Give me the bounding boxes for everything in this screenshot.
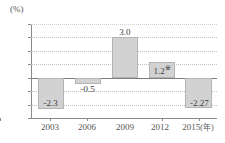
- y-axis-unit-label: (%): [10, 4, 24, 14]
- y-tickmark-minus-2: [28, 105, 31, 106]
- y-tickmark-minus-1: [28, 91, 31, 92]
- x-tick-label-2015-year: 2015: [182, 122, 200, 132]
- y-tickmark-3: [28, 37, 31, 38]
- plot-area: 4 3 2 1 0 -1 -2 -3 -2.3 -0.5 3.0 1.2※ -2…: [31, 24, 217, 118]
- x-tick-label-2012: 2012: [151, 123, 169, 132]
- x-tickmark-2012: [162, 118, 163, 121]
- x-axis-unit-label: (年): [200, 123, 213, 132]
- x-tick-label-2009: 2009: [116, 123, 134, 132]
- x-tick-label-2015: 2015(年): [182, 123, 213, 132]
- bar-label-2015: -2.27: [182, 99, 217, 108]
- bar-label-2012-value: 1.2: [153, 66, 164, 76]
- x-tick-label-2003: 2003: [41, 123, 59, 132]
- bar-label-2009: 3.0: [107, 28, 142, 37]
- bar-label-2012: 1.2※: [144, 65, 179, 76]
- bar-label-2003: -2.3: [38, 99, 64, 108]
- y-tickmark-4: [28, 24, 31, 25]
- x-tickmark-2006: [87, 118, 88, 121]
- x-tick-label-2006: 2006: [78, 123, 96, 132]
- bar-label-2006: -0.5: [70, 85, 105, 94]
- x-tickmark-2003: [50, 118, 51, 121]
- x-axis-line: [31, 118, 217, 119]
- y-tickmark-1: [28, 64, 31, 65]
- x-tickmark-2009: [0, 118, 1, 121]
- gridline-4: [31, 24, 217, 25]
- y-tickmark-zero: [28, 78, 31, 79]
- bar-2009: [112, 37, 138, 77]
- asterisk-icon: ※: [165, 64, 171, 72]
- x-tickmark-2015: [199, 118, 200, 121]
- bar-chart: (%) 4 3 2 1 0 -1 -2 -3 -2.3: [0, 0, 225, 143]
- y-tickmark-2: [28, 51, 31, 52]
